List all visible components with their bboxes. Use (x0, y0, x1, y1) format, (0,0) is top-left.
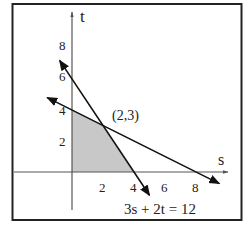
x-tick-6: 6 (161, 180, 168, 195)
y-tick-4: 4 (59, 103, 66, 118)
x-tick-4: 4 (130, 180, 137, 195)
graph-figure: t s 8 6 4 2 2 4 6 8 (2,3) 3s + 2t = 12 (0, 0, 248, 227)
equation-label: 3s + 2t = 12 (124, 201, 196, 217)
s-axis-label: s (218, 151, 224, 168)
y-tick-2: 2 (59, 134, 66, 149)
y-tick-8: 8 (59, 38, 66, 53)
x-tick-2: 2 (99, 180, 106, 195)
t-axis-label: t (80, 7, 85, 26)
y-tick-6: 6 (59, 69, 66, 84)
x-tick-8: 8 (192, 180, 199, 195)
intersection-label: (2,3) (112, 108, 139, 124)
